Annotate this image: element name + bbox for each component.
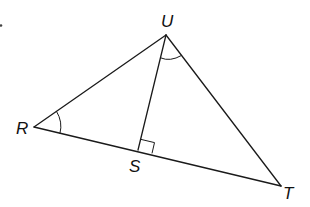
label-U: U <box>161 12 174 31</box>
stray-dot <box>0 24 2 27</box>
angle-arc-U <box>161 56 182 60</box>
label-S: S <box>129 157 141 176</box>
right-angle-mark-S <box>141 139 155 153</box>
triangle-diagram: U R S T <box>0 0 310 207</box>
segment-UT <box>166 35 281 186</box>
segment-RT <box>34 127 281 186</box>
segment-UR <box>34 35 166 127</box>
label-T: T <box>283 184 295 203</box>
angle-arc-R <box>57 111 61 133</box>
label-R: R <box>16 119 28 138</box>
